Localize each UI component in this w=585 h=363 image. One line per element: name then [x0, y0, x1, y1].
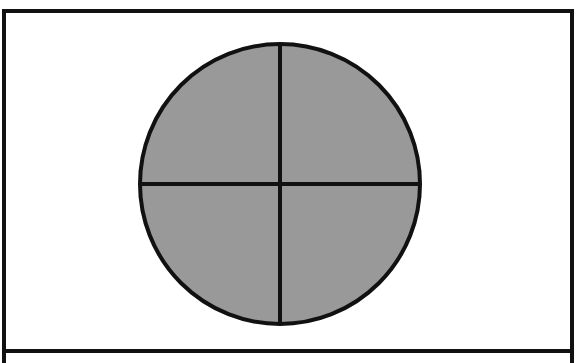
- diagram-canvas: [0, 0, 585, 363]
